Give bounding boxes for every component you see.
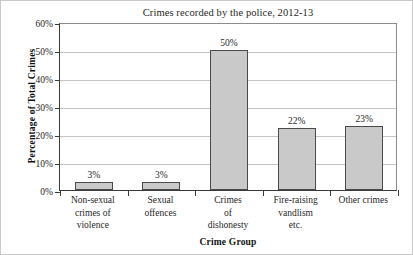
x-axis-category-label-line: vandlism	[262, 207, 330, 220]
bar[interactable]	[345, 126, 383, 190]
plot-area: 0%10%20%30%40%50%60% 3%3%50%22%23%	[59, 23, 397, 191]
x-axis-category-label-line: of	[194, 207, 262, 220]
bar-slot: 23%	[330, 24, 398, 190]
x-axis-category-label-line: Sexual	[127, 194, 195, 207]
bar[interactable]	[142, 182, 180, 190]
x-axis-category-label-line: violence	[59, 219, 127, 232]
bar-slot: 3%	[60, 24, 128, 190]
x-axis-category-label: Crimesofdishonesty	[194, 194, 262, 232]
y-axis-tick-label: 10%	[36, 159, 53, 169]
y-axis-tick-label: 30%	[36, 103, 53, 113]
bar-value-label: 22%	[288, 116, 305, 126]
bar-value-label: 3%	[155, 170, 168, 180]
x-axis-category-label: Non-sexualcrimes ofviolence	[59, 194, 127, 232]
x-axis-category-label-line: Crimes	[194, 194, 262, 207]
x-axis-tick	[398, 190, 399, 196]
x-axis-category-label-line: etc.	[262, 219, 330, 232]
bar[interactable]	[278, 128, 316, 190]
bar-value-label: 3%	[87, 170, 100, 180]
y-axis-tick-label: 0%	[40, 187, 53, 197]
x-axis-title: Crime Group	[59, 237, 397, 247]
x-axis-category-label-line: crimes of	[59, 207, 127, 220]
bar[interactable]	[75, 182, 113, 190]
x-axis-category-label-line: Non-sexual	[59, 194, 127, 207]
x-axis-category-label: Other crimes	[329, 194, 397, 207]
x-axis-category-label-line: offences	[127, 207, 195, 220]
y-axis-tick-label: 50%	[36, 47, 53, 57]
bar-slot: 50%	[195, 24, 263, 190]
y-axis-tick-label: 60%	[36, 19, 53, 29]
bar-slot: 22%	[263, 24, 331, 190]
bar-chart-figure: Crimes recorded by the police, 2012-13 P…	[0, 0, 413, 255]
x-axis-category-labels: Non-sexualcrimes ofviolenceSexualoffence…	[59, 194, 397, 238]
x-axis-category-label: Fire-raisingvandlismetc.	[262, 194, 330, 232]
bar-value-label: 50%	[220, 38, 237, 48]
x-axis-category-label-line: Fire-raising	[262, 194, 330, 207]
x-axis-category-label-line: Other crimes	[329, 194, 397, 207]
x-axis-category-label: Sexualoffences	[127, 194, 195, 219]
bar-value-label: 23%	[355, 114, 372, 124]
x-axis-category-label-line: dishonesty	[194, 219, 262, 232]
y-axis-tick-label: 40%	[36, 75, 53, 85]
chart-title: Crimes recorded by the police, 2012-13	[59, 6, 397, 19]
bar[interactable]	[210, 50, 248, 190]
bar-slot: 3%	[128, 24, 196, 190]
y-axis-tick-label: 20%	[36, 131, 53, 141]
